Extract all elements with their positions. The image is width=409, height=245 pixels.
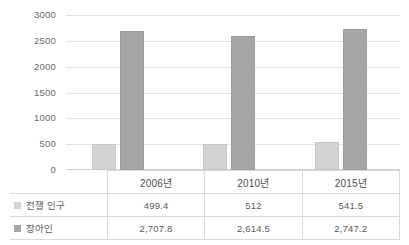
chart-data-table: 2006년 2010년 2015년 전잴 인구 499.4 512 541.5: [10, 170, 400, 240]
y-axis-tick-label: 3000: [4, 10, 56, 20]
chart-plot-wrapper: 3000 2500 2000 1500 1000 500 0: [0, 0, 409, 172]
y-axis-tick-label: 1500: [4, 88, 56, 98]
bar-series-1: [343, 29, 367, 170]
y-axis-tick-label: 1000: [4, 113, 56, 123]
table-cell: 2,707.8: [107, 217, 204, 240]
legend-swatch-icon: [14, 202, 21, 209]
bar-series-0: [315, 142, 339, 170]
bar-group: [177, 15, 288, 170]
table-corner-cell: [10, 171, 107, 194]
bar-group: [289, 15, 400, 170]
legend-item-series-0: 전잴 인구: [10, 194, 107, 217]
bar-series-0: [92, 144, 116, 170]
column-header-year: 2006년: [107, 171, 204, 194]
table-cell: 512: [205, 194, 302, 217]
bar-chart-with-data-table: 3000 2500 2000 1500 1000 500 0: [0, 0, 409, 245]
legend-label: 장아인: [26, 221, 54, 235]
table-row: 장아인 2,707.8 2,614.5 2,747.2: [10, 217, 400, 240]
bar-group: [66, 15, 177, 170]
y-axis: 3000 2500 2000 1500 1000 500 0: [0, 0, 62, 172]
y-axis-tick-label: 500: [4, 139, 56, 149]
table-cell: 499.4: [107, 194, 204, 217]
legend-label: 전잴 인구: [26, 198, 66, 212]
table-cell: 2,747.2: [302, 217, 399, 240]
table-cell: 541.5: [302, 194, 399, 217]
bars-layer: [66, 15, 400, 170]
y-axis-tick-label: 2500: [4, 36, 56, 46]
bar-series-1: [231, 36, 255, 170]
table-row-headers: 2006년 2010년 2015년: [10, 171, 400, 194]
plot-area: [66, 15, 400, 170]
bar-series-1: [120, 31, 144, 170]
bar-series-0: [203, 144, 227, 170]
legend-item-series-1: 장아인: [10, 217, 107, 240]
column-header-year: 2015년: [302, 171, 399, 194]
y-axis-tick-label: 2000: [4, 62, 56, 72]
column-header-year: 2010년: [205, 171, 302, 194]
table-cell: 2,614.5: [205, 217, 302, 240]
table-row: 전잴 인구 499.4 512 541.5: [10, 194, 400, 217]
legend-swatch-icon: [14, 225, 21, 232]
